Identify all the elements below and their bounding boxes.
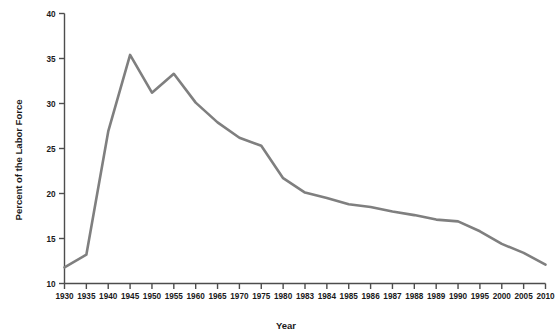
- y-axis-tick-label: 15: [46, 235, 56, 244]
- x-axis-tick-label: 1987: [383, 292, 402, 301]
- x-axis-tick-label: 2000: [493, 292, 512, 301]
- x-axis-tick-label: 1970: [230, 292, 249, 301]
- x-axis-tick-label: 1984: [318, 292, 337, 301]
- x-axis: 1930193519401945195019551960196519701975…: [55, 284, 555, 302]
- x-axis-tick-label: 1995: [471, 292, 490, 301]
- y-axis-tick-label: 40: [46, 10, 56, 19]
- x-axis-title: Year: [276, 320, 296, 331]
- x-axis-tick-label: 1980: [274, 292, 293, 301]
- x-axis-tick-label: 1960: [187, 292, 206, 301]
- x-axis-tick-label: 1988: [405, 292, 424, 301]
- x-axis-tick-label: 1955: [165, 292, 184, 301]
- x-axis-tick-label: 1986: [361, 292, 380, 301]
- y-axis-tick-label: 30: [46, 100, 56, 109]
- y-axis-tick-label: 35: [46, 55, 56, 64]
- x-axis-tick-label: 2005: [515, 292, 534, 301]
- y-axis-tick-label: 25: [46, 145, 56, 154]
- y-axis: 40353025201510: [46, 10, 64, 289]
- x-axis-tick-label: 1983: [296, 292, 315, 301]
- x-axis-tick-label: 1950: [143, 292, 162, 301]
- y-axis-tick-label: 10: [46, 280, 56, 289]
- data-series-group: [65, 55, 546, 267]
- line-chart: 40353025201510 1930193519401945195019551…: [0, 0, 559, 336]
- x-axis-tick-label: 1990: [449, 292, 468, 301]
- x-axis-tick-label: 1945: [121, 292, 140, 301]
- x-axis-tick-label: 1975: [252, 292, 271, 301]
- x-axis-tick-label: 1989: [427, 292, 446, 301]
- x-axis-tick-label: 2010: [536, 292, 555, 301]
- x-axis-tick-label: 1935: [77, 292, 96, 301]
- chart-container: 40353025201510 1930193519401945195019551…: [0, 0, 559, 336]
- y-axis-title: Percent of the Labor Force: [13, 100, 24, 221]
- y-axis-tick-label: 20: [46, 190, 56, 199]
- series-line: [65, 55, 546, 267]
- x-axis-tick-label: 1965: [208, 292, 227, 301]
- x-axis-tick-label: 1930: [55, 292, 74, 301]
- x-axis-tick-label: 1940: [99, 292, 118, 301]
- x-axis-tick-label: 1985: [340, 292, 359, 301]
